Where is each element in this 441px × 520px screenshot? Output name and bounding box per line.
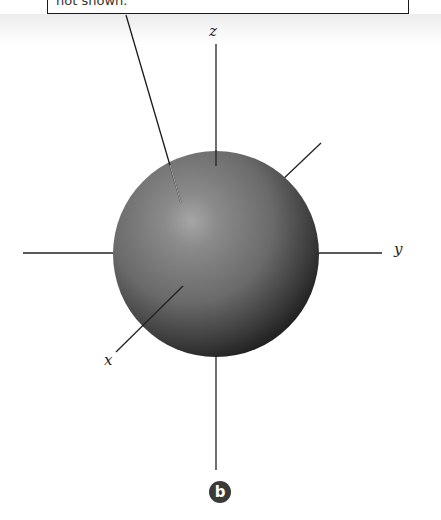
x-axis-label: x [104, 353, 112, 368]
y-axis-label: y [394, 242, 402, 257]
z-axis-label: z [209, 24, 217, 39]
panel-badge: b [209, 481, 231, 503]
diagonal-axis-back [280, 143, 321, 182]
s-orbital-sphere [113, 151, 319, 357]
orbital-diagram [0, 0, 441, 520]
